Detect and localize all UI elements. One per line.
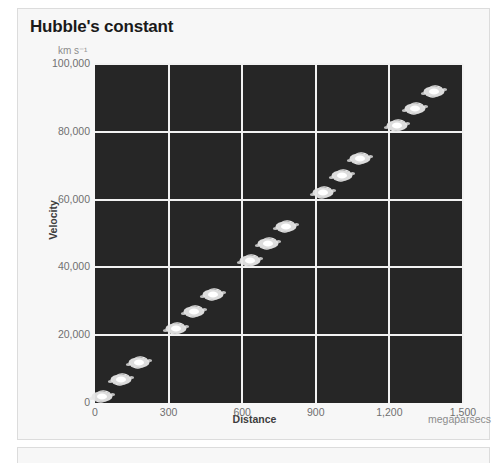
y-axis-unit-label: km s⁻¹ [58, 45, 87, 56]
gridline-vertical [168, 64, 170, 403]
scatter-plot-area [95, 64, 463, 403]
x-axis-tick-label: 300 [139, 406, 199, 418]
galaxy-icon [124, 354, 154, 375]
y-axis-tick-label: 100,000 [20, 57, 90, 69]
page-title: Hubble's constant [30, 17, 173, 37]
page-root: Hubble's constant km s⁻¹ Velocity Distan… [0, 0, 504, 463]
x-axis-tick-label: 900 [286, 406, 346, 418]
galaxy-icon [271, 218, 301, 239]
gridline-horizontal [95, 266, 463, 268]
galaxy-icon [419, 83, 449, 104]
gridline-vertical [315, 64, 317, 403]
y-axis-tick-label: 80,000 [20, 125, 90, 137]
galaxy-icon [198, 286, 228, 307]
gridline-vertical [241, 64, 243, 403]
hubble-constant-card: Hubble's constant km s⁻¹ Velocity Distan… [17, 8, 490, 440]
y-axis-tick-label: 60,000 [20, 193, 90, 205]
x-axis-tick-label: 1,500 [433, 406, 493, 418]
y-axis-tick-label: 20,000 [20, 328, 90, 340]
secondary-card [17, 447, 490, 463]
y-axis-unit-text: km s⁻¹ [58, 45, 87, 56]
x-axis-tick-label: 1,200 [359, 406, 419, 418]
gridline-vertical [388, 64, 390, 403]
x-axis-tick-label: 600 [212, 406, 272, 418]
galaxy-icon [345, 150, 375, 171]
y-axis-tick-label: 40,000 [20, 260, 90, 272]
gridline-horizontal [95, 199, 463, 201]
gridline-vertical [462, 64, 464, 403]
gridline-horizontal [95, 63, 463, 65]
gridline-horizontal [95, 334, 463, 336]
